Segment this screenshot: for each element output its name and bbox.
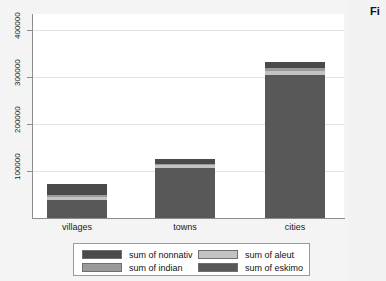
side-note-text: Fi bbox=[370, 5, 386, 17]
gridline-400000 bbox=[33, 30, 344, 31]
legend-item-indian[interactable]: sum of indian bbox=[82, 262, 183, 273]
bar-segment-towns-eskimo[interactable] bbox=[155, 168, 215, 218]
xtick-label-towns: towns bbox=[155, 222, 215, 232]
legend-item-nonnativ[interactable]: sum of nonnativ bbox=[82, 249, 193, 260]
legend-swatch-aleut-icon bbox=[198, 250, 238, 259]
legend-item-eskimo[interactable]: sum of eskimo bbox=[198, 262, 303, 273]
bar-segment-villages-nonnativ[interactable] bbox=[47, 184, 107, 195]
bar-segment-cities-eskimo[interactable] bbox=[265, 75, 325, 218]
ytick-label-200000-text: 200000 bbox=[13, 106, 22, 133]
y-axis-line bbox=[32, 14, 33, 219]
legend-swatch-eskimo-icon bbox=[198, 263, 238, 272]
legend-label-nonnativ: sum of nonnativ bbox=[129, 250, 193, 260]
ytick-label-400000-text: 400000 bbox=[13, 12, 22, 39]
legend-swatch-indian-icon bbox=[82, 263, 122, 272]
x-axis-line bbox=[32, 218, 345, 219]
xtick-label-cities: cities bbox=[265, 222, 325, 232]
figure-container: 400000 300000 200000 100000 villages tow… bbox=[0, 0, 348, 281]
bar-segment-villages-eskimo[interactable] bbox=[47, 200, 107, 218]
legend-item-aleut[interactable]: sum of aleut bbox=[198, 249, 294, 260]
legend-label-eskimo: sum of eskimo bbox=[245, 263, 303, 273]
legend-label-aleut: sum of aleut bbox=[245, 250, 294, 260]
ytick-label-300000-text: 300000 bbox=[13, 59, 22, 86]
bar-villages[interactable] bbox=[47, 184, 107, 218]
legend-label-indian: sum of indian bbox=[129, 263, 183, 273]
legend-swatch-nonnativ-icon bbox=[82, 250, 122, 259]
xtick-label-villages: villages bbox=[47, 222, 107, 232]
bar-segment-cities-nonnativ[interactable] bbox=[265, 62, 325, 69]
bar-cities[interactable] bbox=[265, 62, 325, 218]
chart-legend: sum of nonnativ sum of indian sum of ale… bbox=[73, 243, 310, 276]
ytick-label-100000-text: 100000 bbox=[13, 153, 22, 180]
bar-towns[interactable] bbox=[155, 159, 215, 218]
